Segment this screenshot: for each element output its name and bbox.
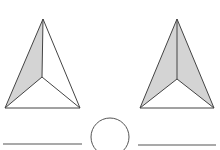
left-pyramid-edge-right: [42, 77, 80, 108]
pyramid-comparison-diagram: [0, 0, 220, 150]
right-pyramid: [140, 19, 214, 108]
comparison-circle[interactable]: [91, 118, 129, 150]
left-pyramid: [5, 19, 80, 108]
